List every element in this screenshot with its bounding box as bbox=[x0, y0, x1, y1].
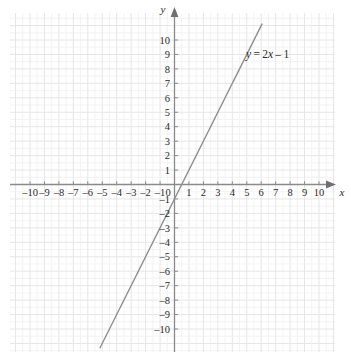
y-tick-label: –5 bbox=[159, 251, 171, 262]
y-tick-label: –10 bbox=[153, 324, 170, 335]
x-tick-label: 7 bbox=[273, 187, 278, 198]
y-tick-label: –6 bbox=[159, 266, 171, 277]
y-tick-label: 5 bbox=[165, 107, 170, 118]
eq-equals: = bbox=[251, 48, 262, 60]
x-tick-label: –6 bbox=[82, 187, 94, 198]
y-tick-label: –2 bbox=[159, 208, 171, 219]
y-tick-label: –8 bbox=[159, 295, 171, 306]
x-tick-label: 3 bbox=[215, 187, 220, 198]
y-tick-label: –3 bbox=[159, 223, 171, 234]
x-tick-label: 5 bbox=[244, 187, 249, 198]
x-axis-label: x bbox=[339, 186, 345, 198]
x-tick-label: 1 bbox=[186, 187, 191, 198]
y-tick-label: 8 bbox=[165, 64, 170, 75]
y-axis-label: y bbox=[160, 3, 166, 15]
x-tick-label: –8 bbox=[53, 187, 65, 198]
x-tick-label: 8 bbox=[287, 187, 292, 198]
x-tick-label: –4 bbox=[110, 187, 122, 198]
x-tick-label: 6 bbox=[259, 187, 264, 198]
y-tick-label: –4 bbox=[159, 237, 171, 248]
y-tick-label: 9 bbox=[165, 49, 170, 60]
x-tick-label: –2 bbox=[139, 187, 151, 198]
x-tick-label: –3 bbox=[125, 187, 137, 198]
y-tick-label: –7 bbox=[159, 280, 171, 291]
eq-operator: – bbox=[273, 48, 283, 60]
x-tick-label: 2 bbox=[201, 187, 206, 198]
graph-canvas: –10–9–8–7–6–5–4–3–2–11234567891010987654… bbox=[0, 0, 351, 358]
x-tick-label: –9 bbox=[38, 187, 50, 198]
x-tick-label: –5 bbox=[96, 187, 108, 198]
y-tick-label: 7 bbox=[165, 78, 170, 89]
y-tick-label: 6 bbox=[165, 93, 170, 104]
x-tick-label: 9 bbox=[302, 187, 307, 198]
x-tick-label: 4 bbox=[230, 187, 236, 198]
equation-annotation: y = 2x – 1 bbox=[245, 48, 289, 61]
y-tick-label: 3 bbox=[165, 136, 170, 147]
y-tick-label: 1 bbox=[165, 165, 170, 176]
y-tick-label: 4 bbox=[165, 121, 171, 132]
origin-label: 0 bbox=[165, 187, 170, 198]
x-tick-label: –10 bbox=[21, 187, 38, 198]
eq-constant: 1 bbox=[283, 48, 289, 60]
y-tick-label: 10 bbox=[160, 35, 171, 46]
y-tick-label: 2 bbox=[165, 150, 170, 161]
coordinate-plane-figure: –10–9–8–7–6–5–4–3–2–11234567891010987654… bbox=[0, 0, 351, 358]
y-tick-label: –9 bbox=[159, 309, 171, 320]
x-tick-label: 10 bbox=[314, 187, 325, 198]
x-tick-label: –7 bbox=[67, 187, 79, 198]
figure-background bbox=[0, 0, 351, 358]
